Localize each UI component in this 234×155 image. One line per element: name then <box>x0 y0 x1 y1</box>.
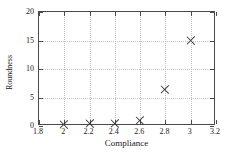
x-tick-label: 1.8 <box>33 127 43 136</box>
y-tick-label: 5 <box>18 92 34 101</box>
y-tick-label: 10 <box>18 64 34 73</box>
x-tick-mark <box>216 12 217 16</box>
x-tick-mark <box>90 12 91 16</box>
y-tick-mark <box>39 41 43 42</box>
x-tick-label: 2.4 <box>109 127 119 136</box>
scatter-chart-figure: 1.822.22.42.62.833.2 05101520 Compliance… <box>0 0 234 155</box>
data-point-marker <box>136 116 145 125</box>
y-tick-mark <box>39 69 43 70</box>
x-tick-label: 2.6 <box>134 127 144 136</box>
y-tick-mark <box>210 69 214 70</box>
y-tick-label: 0 <box>18 121 34 130</box>
y-tick-mark <box>210 41 214 42</box>
gridline-horizontal <box>39 69 214 70</box>
gridline-horizontal <box>39 98 214 99</box>
gridline-vertical <box>90 12 91 124</box>
y-tick-label: 20 <box>18 7 34 16</box>
y-axis-title: Roundness <box>5 38 14 108</box>
x-axis-title: Compliance <box>38 138 215 148</box>
gridline-vertical <box>140 12 141 124</box>
y-tick-mark <box>39 98 43 99</box>
gridline-vertical <box>191 12 192 124</box>
y-tick-mark <box>39 12 43 13</box>
x-tick-mark <box>165 12 166 16</box>
gridline-vertical <box>64 12 65 124</box>
y-tick-mark <box>210 98 214 99</box>
gridline-vertical <box>165 12 166 124</box>
x-tick-mark <box>115 12 116 16</box>
plot-area <box>38 11 215 125</box>
x-tick-label: 2 <box>61 127 65 136</box>
y-tick-mark <box>210 12 214 13</box>
x-tick-label: 3.2 <box>210 127 220 136</box>
x-tick-mark <box>191 12 192 16</box>
data-point-marker <box>186 36 195 45</box>
gridline-vertical <box>115 12 116 124</box>
x-tick-mark <box>39 120 40 124</box>
x-tick-mark <box>216 120 217 124</box>
x-tick-label: 2.2 <box>84 127 94 136</box>
x-tick-label: 2.8 <box>159 127 169 136</box>
x-tick-mark <box>140 12 141 16</box>
gridlines <box>39 12 214 124</box>
x-tick-mark <box>165 120 166 124</box>
x-tick-label: 3 <box>188 127 192 136</box>
y-tick-label: 15 <box>18 35 34 44</box>
x-tick-mark <box>64 12 65 16</box>
data-point-marker <box>161 85 170 94</box>
x-tick-mark <box>191 120 192 124</box>
